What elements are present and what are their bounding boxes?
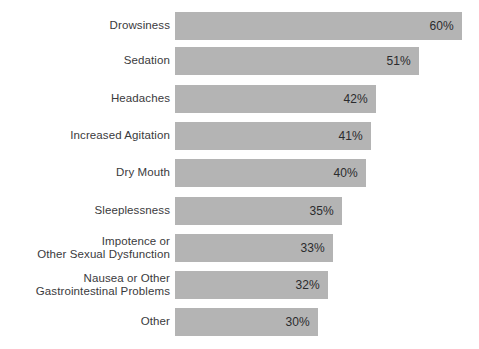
bar-row: Sleeplessness 35%: [0, 197, 479, 225]
bar-value-label: 30%: [285, 315, 310, 329]
bar-track: 30%: [175, 308, 479, 336]
bar-value-label: 40%: [333, 166, 358, 180]
bar-chart: Drowsiness 60% Sedation 51% Headaches 42…: [0, 0, 479, 349]
bar-value-label: 32%: [295, 278, 320, 292]
bar-track: 33%: [175, 234, 479, 262]
bar-value-label: 42%: [343, 92, 368, 106]
bar-row: Headaches 42%: [0, 85, 479, 113]
bar-row: Increased Agitation 41%: [0, 122, 479, 150]
category-label: Dry Mouth: [0, 166, 170, 180]
bar-value-label: 41%: [338, 129, 363, 143]
category-label: Increased Agitation: [0, 129, 170, 143]
bar-track: 32%: [175, 271, 479, 299]
bar-track: 40%: [175, 159, 479, 187]
bar-row: Nausea or Other Gastrointestinal Problem…: [0, 271, 479, 299]
bar[interactable]: 51%: [175, 47, 419, 75]
bar-track: 42%: [175, 85, 479, 113]
bar-row: Drowsiness 60%: [0, 12, 479, 40]
category-label: Nausea or Other Gastrointestinal Problem…: [0, 272, 170, 299]
bar-value-label: 60%: [429, 19, 454, 33]
bar-value-label: 33%: [300, 241, 325, 255]
bar[interactable]: 60%: [175, 12, 462, 40]
category-label: Impotence or Other Sexual Dysfunction: [0, 235, 170, 262]
bar-value-label: 51%: [386, 54, 411, 68]
bar[interactable]: 42%: [175, 85, 376, 113]
bar-row: Impotence or Other Sexual Dysfunction 33…: [0, 234, 479, 262]
category-label: Other: [0, 315, 170, 329]
bar-row: Other 30%: [0, 308, 479, 336]
bar-row: Sedation 51%: [0, 47, 479, 75]
bar[interactable]: 40%: [175, 159, 366, 187]
bar-track: 51%: [175, 47, 479, 75]
bar-track: 35%: [175, 197, 479, 225]
category-label: Headaches: [0, 92, 170, 106]
bar[interactable]: 32%: [175, 271, 328, 299]
bar-track: 41%: [175, 122, 479, 150]
category-label: Sleeplessness: [0, 204, 170, 218]
bar[interactable]: 41%: [175, 122, 371, 150]
category-label: Drowsiness: [0, 19, 170, 33]
bar-track: 60%: [175, 12, 479, 40]
bar-value-label: 35%: [309, 204, 334, 218]
bar-row: Dry Mouth 40%: [0, 159, 479, 187]
category-label: Sedation: [0, 54, 170, 68]
bar[interactable]: 33%: [175, 234, 333, 262]
bar[interactable]: 30%: [175, 308, 318, 336]
bar[interactable]: 35%: [175, 197, 342, 225]
